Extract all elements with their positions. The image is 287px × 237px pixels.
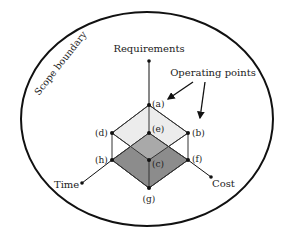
point-label-a: (a) <box>152 99 164 109</box>
operating-points-label: Operating points <box>170 67 256 78</box>
annotation-arrow-b <box>200 82 205 118</box>
point-label-e: (e) <box>152 124 164 134</box>
requirements-axis-tip <box>147 59 151 63</box>
point-label-c: (c) <box>152 159 164 169</box>
diagram-canvas: Scope boundary Requirements Operating po… <box>0 0 287 237</box>
point-label-d: (d) <box>95 128 108 138</box>
annotation-arrow-a <box>168 82 193 99</box>
time-axis-tip <box>80 181 84 185</box>
point-label-b: (b) <box>192 128 205 138</box>
cost-label: Cost <box>212 178 235 189</box>
point-label-f: (f) <box>192 154 202 164</box>
point-label-h: (h) <box>95 155 108 165</box>
requirements-label: Requirements <box>113 43 184 54</box>
time-label: Time <box>54 179 79 190</box>
point-label-g: (g) <box>143 194 156 204</box>
